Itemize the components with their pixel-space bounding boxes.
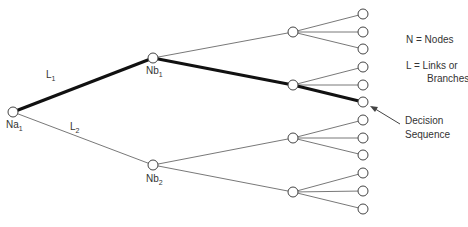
legend-branches: Branches: [427, 73, 468, 84]
leaf-link: [293, 67, 363, 85]
decision-tree-diagram: L1 L2 Na1 Nb1 Nb2 N = Nodes L = Links or…: [0, 0, 468, 227]
node-level3: [288, 187, 298, 197]
leaf-node: [358, 133, 368, 143]
leaf-link: [293, 138, 363, 155]
leaf-link: [293, 32, 363, 49]
leaf-node: [358, 80, 368, 90]
leaf-link: [293, 191, 363, 192]
leaf-node: [358, 27, 368, 37]
link: [153, 138, 293, 165]
node-nb2: [148, 160, 158, 170]
link: [153, 32, 293, 58]
leaf-node: [358, 97, 368, 107]
leaf-node: [358, 168, 368, 178]
leaf-node: [358, 115, 368, 125]
leaf-link: [293, 14, 363, 32]
legend-nodes: N = Nodes: [406, 34, 454, 45]
arrow-head-icon: [370, 106, 378, 112]
legend-links: L = Links or: [406, 60, 458, 71]
node-level3: [288, 27, 298, 37]
node-label-nb2: Nb2: [146, 173, 163, 186]
tree-nodes: [8, 9, 368, 214]
annotation-decision: Decision: [405, 115, 443, 126]
decision-sequence-link: [293, 85, 363, 102]
leaf-link: [293, 120, 363, 138]
link-bold: [153, 58, 293, 85]
node-label-na1: Na1: [6, 119, 23, 132]
node-level3: [288, 80, 298, 90]
link-l2: [13, 112, 153, 165]
node-na1: [8, 107, 18, 117]
leaf-link: [293, 173, 363, 192]
leaf-node: [358, 186, 368, 196]
node-nb1: [148, 53, 158, 63]
leaf-node: [358, 204, 368, 214]
leaf-node: [358, 9, 368, 19]
leaf-node: [358, 62, 368, 72]
node-level3: [288, 133, 298, 143]
leaf-node: [358, 150, 368, 160]
leaf-link: [293, 192, 363, 209]
tree-edges: [13, 14, 363, 209]
node-label-nb1: Nb1: [146, 65, 163, 78]
link-label-l2: L2: [70, 121, 80, 134]
link-l1: [13, 58, 153, 112]
leaf-node: [358, 44, 368, 54]
link-label-l1: L1: [46, 69, 56, 82]
annotation-sequence: Sequence: [405, 129, 450, 140]
link: [153, 165, 293, 192]
